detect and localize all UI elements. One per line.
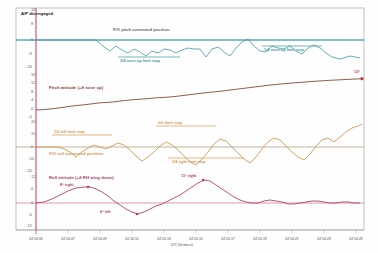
panel4-ytick-neg12: -12 (26, 223, 33, 228)
x-tick-label-5: 02:10:15 (189, 237, 203, 241)
x-tick-label-10: 02:10:25 (349, 237, 363, 241)
chart-background (0, 0, 378, 253)
panel3-ytick-neg20: -20 (26, 168, 33, 173)
x-tick-label-9: 02:10:23 (317, 237, 331, 241)
chart-svg: 16 8 0 -8 -16 F/O pitch command position… (0, 0, 378, 253)
panel2-series-label: Pitch attitude (+ð nose up) (49, 85, 104, 90)
panel3-annotation-3-4-right-limit: 3/4 right limit stop (172, 159, 206, 164)
x-tick-label-6: 02:10:17 (221, 237, 235, 241)
panel3-ytick-neg10: -10 (28, 156, 35, 161)
panel3-annotation-half-left-limit: 1/2 left limit stop (54, 129, 85, 134)
x-tick-label-7: 02:10:19 (253, 237, 267, 241)
fdr-chart-figure: 16 8 0 -8 -16 F/O pitch command position… (0, 0, 378, 253)
x-tick-label-1: 02:10:07 (61, 237, 75, 241)
x-axis-unit-label: UTC (hh:mm:ss) (171, 243, 193, 247)
panel3-annotation-left-limit: left limit stop (158, 120, 183, 125)
ap-disengaged-label: A/P disengaged (21, 11, 54, 16)
panel3-series-label: F/O roll command position (49, 151, 104, 156)
x-tick-label-2: 02:10:09 (93, 237, 107, 241)
panel4-point-8deg-right (87, 186, 90, 189)
x-tick-label-4: 02:10:13 (157, 237, 171, 241)
x-tick-label-0: 02:10:05 (29, 237, 43, 241)
panel4-annotation-11deg-right: 11° right (181, 173, 197, 178)
panel1-annotation-1-4-nose-up: 1/4 nose-up limit stop (264, 47, 305, 52)
panel1-annotation-3-4-nose-up: 3/4 nose-up limit stop (120, 58, 161, 63)
panel4-annotation-6deg-left: 6° left (100, 209, 111, 214)
panel4-point-11deg-right (202, 179, 205, 182)
x-tick-label-3: 02:10:11 (125, 237, 138, 241)
panel4-annotation-8deg-right: 8° right (60, 182, 74, 187)
panel1-series-label: F/O pitch command position (113, 27, 170, 32)
panel4-series-label: Roll attitude (+ð RH wing down) (49, 175, 114, 180)
x-tick-label-8: 02:10:21 (285, 237, 299, 241)
panel4-point-6deg-left (136, 213, 139, 216)
panel1-ytick-neg16: -16 (26, 64, 33, 69)
panel2-annotation-13deg: 13° (354, 69, 360, 74)
panel2-endpoint-marker (360, 77, 363, 80)
